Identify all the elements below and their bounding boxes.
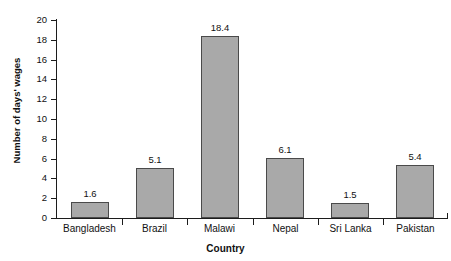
y-axis-tick	[51, 198, 57, 199]
y-axis-tick	[51, 159, 57, 160]
x-axis-line	[56, 218, 448, 219]
bar-value-label: 1.5	[325, 190, 375, 200]
y-axis-tick	[51, 79, 57, 80]
bar	[71, 202, 109, 218]
y-axis-tick	[51, 40, 57, 41]
y-axis-tick-label: 0	[0, 213, 47, 223]
x-axis-category-label: Brazil	[122, 223, 187, 234]
bar-value-label: 18.4	[195, 23, 245, 33]
bar	[396, 165, 434, 218]
y-axis-tick-label: 12	[0, 94, 47, 104]
x-axis-category-label: Sri Lanka	[318, 223, 383, 234]
y-axis-tick	[51, 139, 57, 140]
y-axis-tick	[51, 218, 57, 219]
y-axis-tick-label: 16	[0, 55, 47, 65]
bar-value-label: 5.4	[390, 152, 440, 162]
y-axis-tick	[51, 119, 57, 120]
x-axis-category-label: Malawi	[187, 223, 252, 234]
y-axis-tick-label: 2	[0, 193, 47, 203]
bar	[331, 203, 369, 218]
bar	[201, 36, 239, 218]
x-axis-end-tick	[447, 213, 448, 219]
chart-title: Cost of Treatment in Low- and Middle-Inc…	[0, 0, 451, 1]
y-axis-tick-label: 6	[0, 154, 47, 164]
y-axis-tick	[51, 178, 57, 179]
y-axis-tick	[51, 20, 57, 21]
bar	[266, 158, 304, 218]
y-axis-tick-label: 18	[0, 35, 47, 45]
y-axis-tick	[51, 99, 57, 100]
bar-value-label: 5.1	[130, 155, 180, 165]
x-axis-category-label: Pakistan	[383, 223, 448, 234]
bar-chart: Cost of Treatment in Low- and Middle-Inc…	[0, 0, 451, 261]
y-axis-tick-label: 4	[0, 173, 47, 183]
y-axis-tick	[51, 60, 57, 61]
bar-value-label: 1.6	[65, 189, 115, 199]
y-axis-tick-label: 8	[0, 134, 47, 144]
x-axis-title: Country	[0, 243, 451, 254]
bar-value-label: 6.1	[260, 145, 310, 155]
x-axis-category-label: Nepal	[253, 223, 318, 234]
x-axis-category-label: Bangladesh	[57, 223, 122, 234]
bar	[136, 168, 174, 218]
y-axis-tick-label: 14	[0, 74, 47, 84]
y-axis-tick-label: 20	[0, 15, 47, 25]
y-axis-tick-label: 10	[0, 114, 47, 124]
